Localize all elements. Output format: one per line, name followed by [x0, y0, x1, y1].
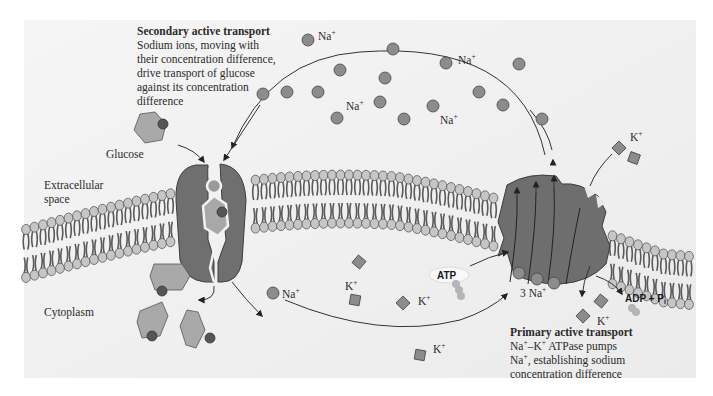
cytoplasm-label: Cytoplasm — [44, 306, 94, 319]
sodium-glucose-symporter — [176, 164, 246, 282]
cytoplasm-sodium-ion — [267, 287, 279, 299]
svg-text:Primary active transport: Primary active transport — [510, 326, 633, 339]
svg-text:ADP + Pi: ADP + Pi — [625, 293, 666, 305]
extracellular-space-label-2: space — [44, 193, 70, 206]
bound-glucose-tag — [217, 207, 227, 217]
pump-sodium-ion — [513, 267, 525, 279]
svg-text:Na+, establishing sodium: Na+, establishing sodium — [510, 352, 625, 367]
svg-text:drive transport of glucose: drive transport of glucose — [137, 67, 255, 80]
sodium-glucose-transport-diagram: Na+ Na+ Na+ Na+ Na+ 3 Na+ K+ K+ K+ K+ K+… — [0, 0, 713, 396]
svg-text:ATP: ATP — [437, 270, 457, 281]
svg-text:their concentration difference: their concentration difference, — [137, 53, 276, 66]
extracellular-space-label: Extracellular — [44, 179, 104, 191]
glucose-label: Glucose — [106, 148, 144, 160]
sodium-potassium-pump — [498, 175, 610, 284]
pump-sodium-ion — [548, 277, 560, 289]
svg-text:against its concentration: against its concentration — [137, 81, 249, 94]
svg-text:difference: difference — [137, 95, 183, 107]
svg-text:concentration difference: concentration difference — [510, 368, 622, 380]
pump-sodium-ion — [531, 273, 543, 285]
svg-text:Sodium ions, moving with: Sodium ions, moving with — [137, 39, 259, 52]
svg-text:Secondary active transport: Secondary active transport — [137, 25, 270, 38]
bound-sodium-ion — [207, 179, 221, 193]
